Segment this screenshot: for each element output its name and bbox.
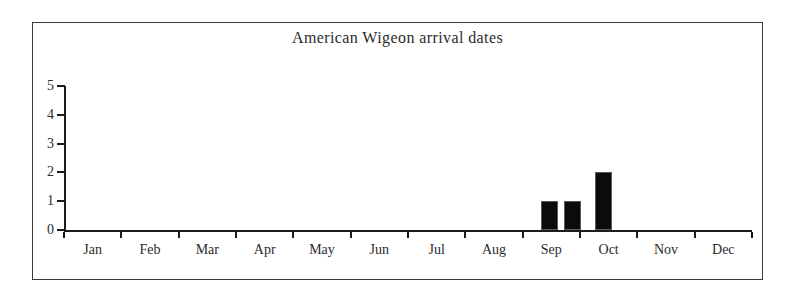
x-tick-label-jul: Jul xyxy=(408,243,465,257)
x-tick-3 xyxy=(235,232,237,238)
x-tick-0 xyxy=(63,232,65,238)
y-tick-label-3: 3 xyxy=(32,137,54,151)
y-tick-label-4: 4 xyxy=(32,108,54,122)
x-tick-label-dec: Dec xyxy=(695,243,752,257)
y-tick-0 xyxy=(57,229,65,231)
x-tick-1 xyxy=(120,232,122,238)
x-tick-label-sep: Sep xyxy=(523,243,580,257)
x-tick-label-jun: Jun xyxy=(351,243,408,257)
y-tick-4 xyxy=(57,114,65,116)
x-tick-label-aug: Aug xyxy=(465,243,522,257)
x-tick-label-feb: Feb xyxy=(121,243,178,257)
y-tick-5 xyxy=(57,85,65,87)
x-tick-label-apr: Apr xyxy=(236,243,293,257)
y-tick-label-0: 0 xyxy=(32,223,54,237)
x-tick-12 xyxy=(751,232,753,238)
x-tick-label-jan: Jan xyxy=(64,243,121,257)
x-tick-8 xyxy=(522,232,524,238)
x-tick-9 xyxy=(579,232,581,238)
plot-area: 012345 JanFebMarAprMayJunJulAugSepOctNov… xyxy=(64,86,752,230)
x-tick-label-may: May xyxy=(293,243,350,257)
y-tick-2 xyxy=(57,171,65,173)
bar-2 xyxy=(564,201,581,230)
x-tick-2 xyxy=(178,232,180,238)
y-tick-label-1: 1 xyxy=(32,194,54,208)
y-tick-label-5: 5 xyxy=(32,79,54,93)
x-tick-4 xyxy=(292,232,294,238)
x-tick-11 xyxy=(694,232,696,238)
x-tick-5 xyxy=(350,232,352,238)
x-tick-label-oct: Oct xyxy=(580,243,637,257)
y-tick-label-2: 2 xyxy=(32,165,54,179)
x-tick-7 xyxy=(464,232,466,238)
x-tick-10 xyxy=(636,232,638,238)
x-tick-label-mar: Mar xyxy=(179,243,236,257)
y-axis-line xyxy=(64,86,66,231)
bar-3 xyxy=(595,172,612,230)
x-tick-label-nov: Nov xyxy=(637,243,694,257)
figure: American Wigeon arrival dates 012345 Jan… xyxy=(0,0,792,301)
x-tick-6 xyxy=(407,232,409,238)
y-tick-3 xyxy=(57,143,65,145)
y-tick-1 xyxy=(57,200,65,202)
bar-1 xyxy=(541,201,558,230)
chart-title: American Wigeon arrival dates xyxy=(32,29,763,47)
